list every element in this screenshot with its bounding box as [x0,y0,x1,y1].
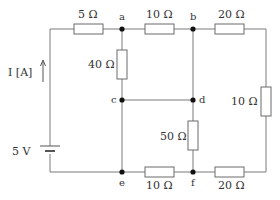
resistor-20ohm-bottom [215,167,244,177]
node-a [119,26,124,31]
node-d-label: d [199,94,206,105]
resistor-40ohm [117,50,127,79]
resistor-10ohm-ef-label: 10 Ω [146,179,173,192]
current-arrow-icon [41,60,46,82]
node-e-label: e [119,177,125,188]
resistor-10ohm-right-label: 10 Ω [231,95,258,108]
resistor-50ohm-label: 50 Ω [160,130,187,143]
resistor-10ohm-ef [145,167,174,177]
resistor-20ohm-top [215,24,244,34]
resistor-5ohm [74,24,103,34]
resistor-5ohm-label: 5 Ω [78,8,98,21]
resistor-20ohm-top-label: 20 Ω [218,8,245,21]
node-e [119,169,124,174]
resistor-20ohm-bottom-label: 20 Ω [218,179,245,192]
node-d [190,97,195,102]
resistor-10ohm-right [261,87,271,116]
node-b-label: b [190,11,196,22]
node-f [190,169,195,174]
resistor-10ohm-ab [145,24,174,34]
node-c-label: c [111,94,117,105]
circuit-diagram: 5 V I [A] 5 Ω 10 Ω 20 Ω 40 Ω 10 Ω 50 Ω 1… [0,0,280,200]
node-c [119,97,124,102]
node-b [190,26,195,31]
voltage-label: 5 V [12,145,31,158]
node-a-label: a [119,11,125,22]
battery-icon [40,146,60,151]
resistor-10ohm-ab-label: 10 Ω [146,8,173,21]
resistor-40ohm-label: 40 Ω [88,58,115,71]
current-label: I [A] [8,66,32,79]
resistor-50ohm [188,121,198,150]
node-f-label: f [191,177,196,188]
